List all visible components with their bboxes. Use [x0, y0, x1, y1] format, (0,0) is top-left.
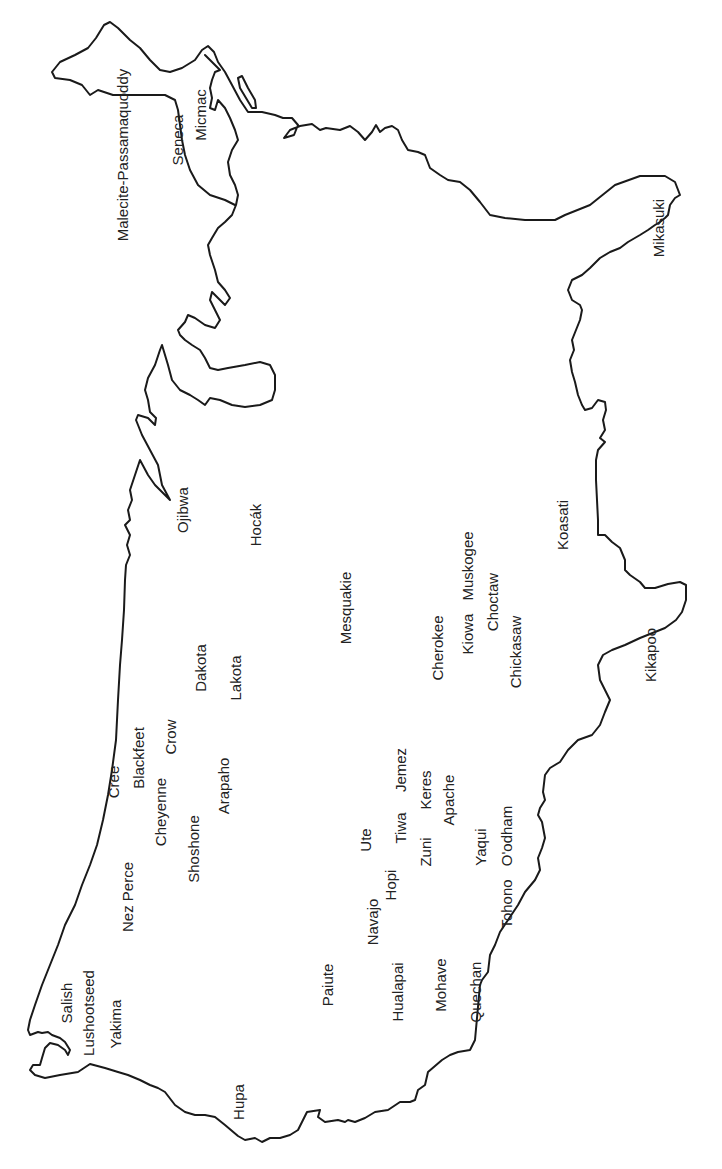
tribe-label-mikasuki: Mikasuki [651, 199, 666, 257]
tribe-label-tohono: Tohono [499, 879, 514, 928]
tribe-label-koasati: Koasati [555, 500, 570, 550]
tribe-label-dakota: Dakota [193, 644, 208, 692]
tribe-label-yaqui: Yaqui [473, 828, 488, 865]
tribe-label-mohave: Mohave [433, 958, 448, 1011]
tribe-label-cherokee: Cherokee [430, 615, 445, 680]
tribe-label-cheyenne: Cheyenne [153, 778, 168, 846]
tribe-label-keres: Keres [418, 770, 433, 809]
tribe-label-micmac: Micmac [193, 89, 208, 141]
island-outline [238, 76, 256, 108]
tribe-label-salish: Salish [59, 983, 74, 1024]
tribe-label-o-odham: O'odham [499, 806, 514, 866]
tribe-label-tiwa: Tiwa [393, 812, 408, 843]
tribe-label-yakima: Yakima [108, 1000, 123, 1049]
tribe-label-apache: Apache [441, 775, 456, 826]
tribe-label-blackfeet: Blackfeet [131, 727, 146, 789]
tribe-label-hualapai: Hualapai [390, 962, 405, 1021]
tribe-label-kiowa: Kiowa [460, 614, 475, 655]
tribe-label-shoshone: Shoshone [186, 815, 201, 883]
tribe-label-kikapoo: Kikapoo [643, 628, 658, 682]
tribe-label-cree: Cree [106, 766, 121, 799]
tribe-label-choctaw: Choctaw [485, 573, 500, 631]
tribe-label-quechan: Quechan [468, 962, 483, 1023]
tribe-label-nez-perce: Nez Perce [120, 862, 135, 932]
tribe-label-zuni: Zuni [418, 837, 433, 866]
tribe-label-muskogee: Muskogee [460, 531, 475, 600]
tribe-label-lakota: Lakota [228, 655, 243, 700]
tribe-label-malecite-passamaquoddy: Malecite-Passamaquoddy [115, 69, 130, 242]
tribe-label-lushootseed: Lushootseed [81, 970, 96, 1056]
tribe-label-jemez: Jemez [393, 748, 408, 792]
tribe-label-mesquakie: Mesquakie [338, 572, 353, 645]
tribe-label-ojibwa: Ojibwa [175, 487, 190, 533]
tribe-label-navajo: Navajo [365, 899, 380, 946]
tribe-label-hoc-k: Hocák [248, 504, 263, 547]
tribe-label-seneca: Seneca [170, 115, 185, 166]
us-outline-map [0, 0, 722, 1169]
tribe-label-chickasaw: Chickasaw [508, 616, 523, 689]
tribe-label-paiute: Paiute [320, 964, 335, 1007]
tribe-label-arapaho: Arapaho [216, 758, 231, 815]
tribe-label-ute: Ute [358, 828, 373, 851]
tribe-label-hupa: Hupa [231, 1084, 246, 1120]
tribe-label-hopi: Hopi [383, 870, 398, 901]
tribe-label-crow: Crow [163, 719, 178, 754]
